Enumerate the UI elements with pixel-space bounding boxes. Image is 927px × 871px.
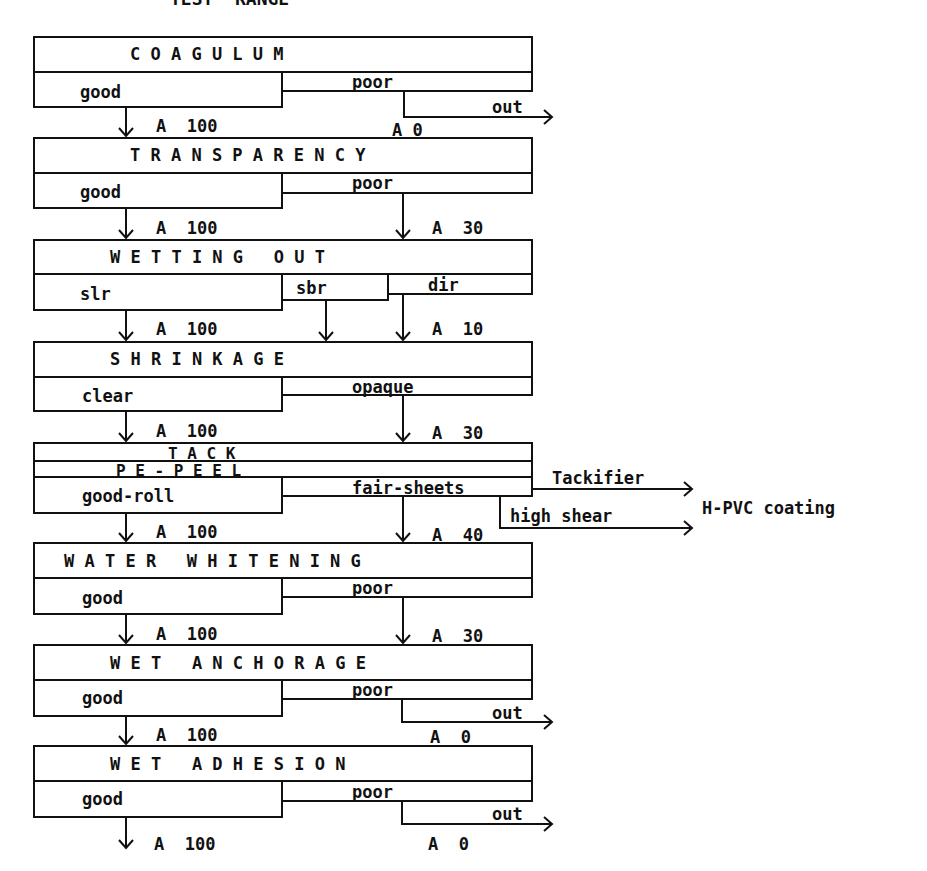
option-clear: clear xyxy=(82,388,133,405)
out-label: out xyxy=(492,806,523,823)
out-label: out xyxy=(492,99,523,116)
option-poor: poor xyxy=(352,580,393,597)
stage-title-wetting-out: W E T T I N G O U T xyxy=(110,249,325,266)
option-slr: slr xyxy=(80,286,111,303)
value-left: A 100 xyxy=(156,524,217,541)
value-right: A 0 xyxy=(428,836,469,853)
stage-title-tack: T A C K xyxy=(168,446,235,462)
option-sbr: sbr xyxy=(296,280,327,297)
option-fair-sheets: fair-sheets xyxy=(352,480,465,497)
value-right: A 30 xyxy=(432,220,483,237)
option-good: good xyxy=(82,690,123,707)
option-opaque: opaque xyxy=(352,379,413,396)
out-label: out xyxy=(492,705,523,722)
stage-title-shrinkage: S H R I N K A G E xyxy=(110,351,284,368)
value-left: A 100 xyxy=(156,423,217,440)
value-left: A 100 xyxy=(156,727,217,744)
value-right: A 0 xyxy=(392,122,423,139)
target-h-pvc-coating: H-PVC coating xyxy=(702,500,835,517)
value-right: A 40 xyxy=(432,527,483,544)
option-good: good xyxy=(80,184,121,201)
value-left: A 100 xyxy=(156,118,217,135)
option-good-roll: good-roll xyxy=(82,488,174,505)
branch-tackifier: Tackifier xyxy=(552,470,644,487)
value-right: A 30 xyxy=(432,628,483,645)
option-poor: poor xyxy=(352,784,393,801)
value-right: A 10 xyxy=(432,321,483,338)
option-good: good xyxy=(82,590,123,607)
value-left: A 100 xyxy=(156,626,217,643)
stage-title-coagulum: C O A G U L U M xyxy=(130,46,284,63)
stage-title-wet-adhesion: W E T A D H E S I O N xyxy=(110,756,345,773)
option-dir: dir xyxy=(428,277,459,294)
value-left: A 100 xyxy=(156,321,217,338)
option-good: good xyxy=(82,791,123,808)
value-right: A 30 xyxy=(432,425,483,442)
value-right: A 0 xyxy=(430,729,471,746)
stage-title-water-whitening: W A T E R W H I T E N I N G xyxy=(64,553,361,570)
value-left: A 100 xyxy=(156,220,217,237)
option-good: good xyxy=(80,84,121,101)
option-poor: poor xyxy=(352,74,393,91)
option-poor: poor xyxy=(352,175,393,192)
stage-title-wet-anchorage: W E T A N C H O R A G E xyxy=(110,655,366,672)
option-poor: poor xyxy=(352,682,393,699)
value-left: A 100 xyxy=(154,836,215,853)
stage-title-transparency: T R A N S P A R E N C Y xyxy=(130,147,365,164)
stage-subtitle-pe-peel: P E - P E E L xyxy=(116,463,241,479)
branch-high-shear: high shear xyxy=(510,508,612,525)
